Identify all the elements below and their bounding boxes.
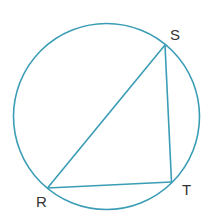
segment-rt xyxy=(48,182,172,188)
segment-st xyxy=(165,45,172,182)
label-r: R xyxy=(36,194,47,209)
label-t: T xyxy=(182,182,191,197)
segment-rs xyxy=(48,45,166,188)
label-s: S xyxy=(170,27,180,42)
diagram-canvas: S T R xyxy=(0,0,214,222)
